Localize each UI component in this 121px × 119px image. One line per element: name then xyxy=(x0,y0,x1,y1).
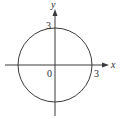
y-axis-arrow-icon xyxy=(53,9,58,16)
origin-label: 0 xyxy=(47,68,52,79)
x-intercept-label: 3 xyxy=(94,68,99,79)
y-intercept-label: 3 xyxy=(46,20,51,31)
circle-diagram: y x 3 0 3 xyxy=(0,0,121,119)
x-axis-label: x xyxy=(110,59,116,70)
x-axis-arrow-icon xyxy=(102,63,109,68)
y-axis-label: y xyxy=(50,0,56,10)
